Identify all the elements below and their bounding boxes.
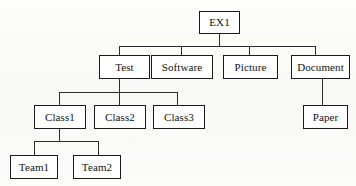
node-test[interactable]: Test [99,55,150,79]
node-label-team2: Team2 [82,161,112,172]
node-team1[interactable]: Team1 [10,155,58,179]
node-software[interactable]: Software [151,55,213,79]
tree-diagram: EX1TestSoftwarePictureDocumentClass1Clas… [0,0,356,186]
node-picture[interactable]: Picture [223,55,278,79]
node-ex1[interactable]: EX1 [199,11,240,34]
node-label-class1: Class1 [45,111,75,122]
node-label-paper: Paper [313,111,339,122]
node-label-ex1: EX1 [209,17,229,28]
node-label-class3: Class3 [164,111,194,122]
node-class3[interactable]: Class3 [153,105,205,129]
node-label-document: Document [297,61,344,72]
node-label-team1: Team1 [19,161,49,172]
node-paper[interactable]: Paper [303,105,348,129]
node-class1[interactable]: Class1 [34,105,86,129]
node-document[interactable]: Document [291,55,350,79]
node-label-test: Test [115,61,134,72]
node-team2[interactable]: Team2 [73,155,121,179]
node-label-picture: Picture [235,61,267,72]
node-class2[interactable]: Class2 [94,105,146,129]
node-label-class2: Class2 [105,111,135,122]
node-label-software: Software [162,61,203,72]
